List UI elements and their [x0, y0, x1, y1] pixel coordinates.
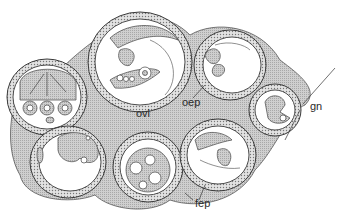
follicle-right [249, 84, 301, 136]
ovary-cross-section-diagram: ovl oep fep gn [0, 0, 351, 217]
follicle-bottom-right [180, 119, 256, 191]
follicle-top-right [194, 30, 266, 100]
follicle-top-center [88, 12, 192, 112]
label-ovl: ovl [136, 107, 150, 119]
label-fep: fep [195, 197, 210, 209]
label-gn: gn [310, 100, 322, 112]
follicle-top-left [7, 59, 87, 135]
follicle-bottom-center [113, 132, 183, 202]
follicle-bottom-left [30, 126, 106, 198]
label-oep: oep [182, 96, 200, 108]
